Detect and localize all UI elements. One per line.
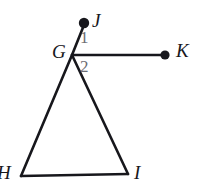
segment-HI [21, 174, 128, 176]
angle-label-1: 1 [80, 29, 89, 46]
point-label-J: J [92, 11, 100, 30]
point-dot-K [160, 50, 169, 59]
segment-GH [21, 55, 72, 176]
point-label-H: H [0, 163, 11, 182]
geometry-figure: J K G H I 1 2 [0, 0, 209, 190]
geometry-canvas [0, 0, 209, 190]
point-dot-J [79, 18, 89, 28]
point-label-K: K [176, 41, 189, 60]
point-label-G: G [52, 42, 66, 61]
angle-label-2: 2 [80, 58, 89, 75]
point-label-I: I [134, 163, 140, 182]
